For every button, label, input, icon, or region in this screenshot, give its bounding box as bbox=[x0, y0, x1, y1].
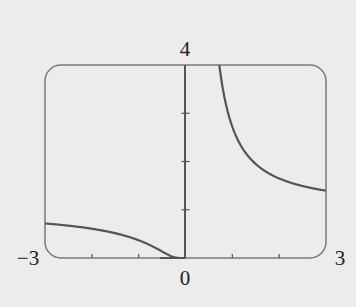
curve-left-branch bbox=[45, 223, 186, 258]
curve-right-branch bbox=[219, 65, 326, 191]
x-min-label: −3 bbox=[17, 246, 39, 270]
y-max-label: 4 bbox=[180, 37, 191, 61]
x-max-label: 3 bbox=[335, 246, 346, 270]
x-zero-label: 0 bbox=[180, 266, 191, 290]
chart: 4 −3 0 3 bbox=[0, 0, 356, 307]
